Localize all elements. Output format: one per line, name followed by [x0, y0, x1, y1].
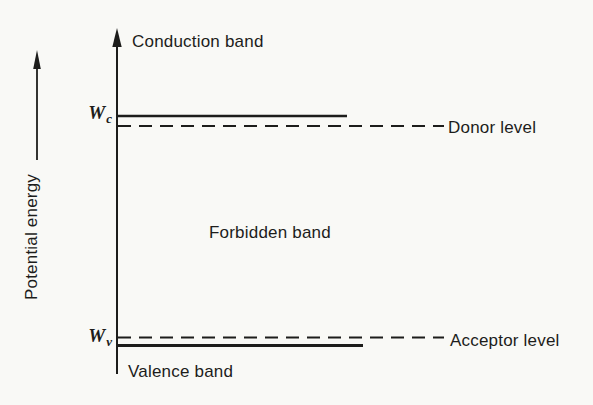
wc-label: Wc [62, 103, 112, 125]
potential-energy-arrowhead-icon [33, 50, 41, 69]
y-axis-arrowhead-icon [112, 28, 121, 47]
wc-symbol: W [88, 102, 105, 123]
conduction-band-label: Conduction band [132, 33, 264, 52]
acceptor-level-label: Acceptor level [450, 332, 560, 351]
valence-band-label: Valence band [128, 363, 233, 382]
donor-level-label: Donor level [448, 119, 536, 138]
wv-symbol: W [88, 325, 105, 346]
energy-band-diagram: Conduction band Wc Donor level Forbidden… [0, 0, 593, 405]
potential-energy-axis-label: Potential energy [22, 166, 44, 308]
wv-label: Wv [62, 326, 112, 348]
wv-subscript: v [106, 334, 112, 349]
forbidden-band-label: Forbidden band [209, 224, 331, 243]
wc-subscript: c [106, 111, 112, 126]
